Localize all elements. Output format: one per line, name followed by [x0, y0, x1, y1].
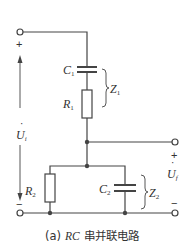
label-input-voltage: Ui: [16, 128, 27, 143]
terminal-output-top: [172, 139, 178, 145]
terminal-output-bottom: [172, 210, 178, 216]
label-output-voltage: Uf: [167, 167, 179, 182]
label-c2: C2: [99, 182, 111, 197]
input-plus-sign: +: [16, 38, 22, 50]
wire-top: [23, 32, 87, 67]
label-r2: R2: [24, 184, 36, 199]
figure-caption: (a)RC串并联电路: [45, 229, 140, 243]
terminal-input-top: [17, 29, 23, 35]
junction-node: [85, 164, 89, 168]
label-c1: C1: [63, 63, 75, 78]
input-minus-sign: −: [16, 198, 22, 210]
rc-series-parallel-circuit: C1 R1 Z1 R2 C2 Z2 + · Ui − + · Uf − (a)R…: [0, 0, 196, 252]
wire-parallel-top: [50, 166, 125, 185]
junction-node: [48, 211, 52, 215]
label-z2: Z2: [149, 186, 160, 201]
resistor-r1: [82, 90, 92, 118]
junction-node: [85, 140, 89, 144]
brace-z2: [141, 175, 148, 209]
junction-node: [123, 211, 127, 215]
label-z1: Z1: [110, 82, 121, 97]
terminal-input-bottom: [17, 210, 23, 216]
resistor-r2: [45, 174, 55, 202]
brace-z1: [102, 69, 109, 107]
arrow-up-head: [18, 55, 23, 63]
label-r1: R1: [62, 97, 74, 112]
output-minus-sign: −: [171, 197, 177, 209]
